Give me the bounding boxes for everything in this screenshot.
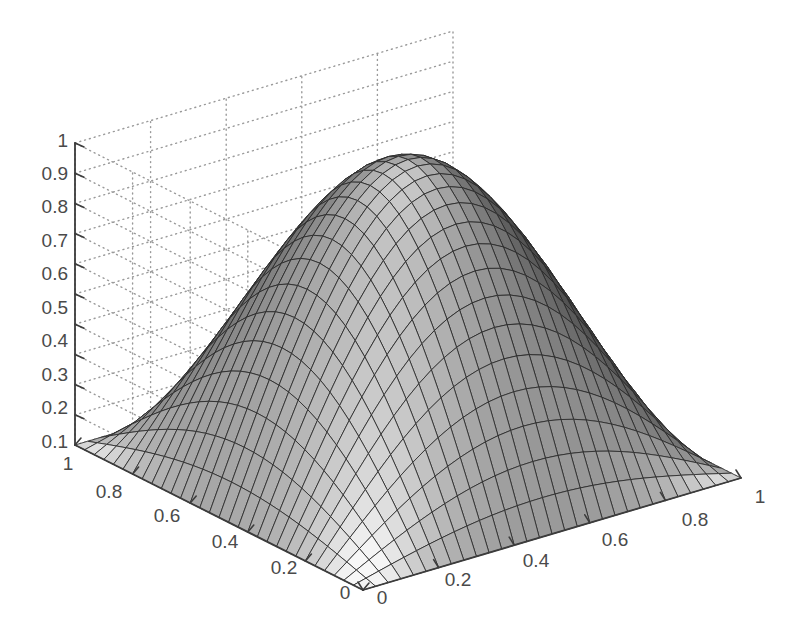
z-axis-tick-label: 0.3 (42, 365, 68, 384)
z-axis-tick-label: 0.9 (42, 164, 68, 183)
surface-plot-svg (0, 0, 793, 641)
z-axis-tick-label: 0.5 (42, 298, 68, 317)
z-axis-tick-label: 0.2 (42, 398, 68, 417)
y-axis-tick-label: 1 (63, 454, 74, 473)
figure-canvas: 10.90.80.70.60.50.40.30.20.110.80.60.40.… (0, 0, 793, 641)
x-axis-tick-label: 0 (377, 588, 388, 607)
y-axis-tick-label: 0.4 (212, 532, 238, 551)
y-axis-tick-label: 0.2 (271, 558, 297, 577)
x-axis-tick-label: 1 (755, 487, 766, 506)
x-axis-tick-label: 0.8 (682, 510, 708, 529)
x-axis-tick-label: 0.4 (523, 551, 549, 570)
z-axis-tick-label: 1 (57, 131, 68, 150)
x-axis-tick-label: 0.6 (602, 530, 628, 549)
z-axis-tick-label: 0.6 (42, 264, 68, 283)
z-axis-tick-label: 0.8 (42, 197, 68, 216)
z-axis-tick-label: 0.1 (42, 432, 68, 451)
z-axis-tick-label: 0.4 (42, 331, 68, 350)
z-axis-tick-label: 0.7 (42, 231, 68, 250)
y-axis-tick-label: 0.8 (96, 482, 122, 501)
y-axis-tick-label: 0.6 (154, 506, 180, 525)
x-axis-tick-label: 0.2 (445, 570, 471, 589)
y-axis-tick-label: 0 (340, 583, 351, 602)
